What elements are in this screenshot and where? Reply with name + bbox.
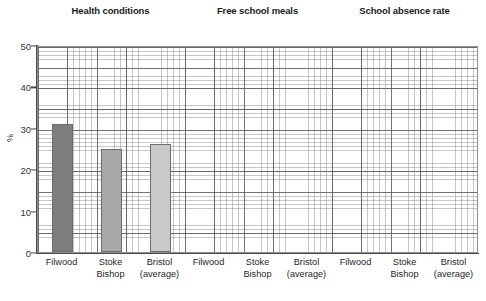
x-label-group-1: FilwoodStokeBishopBristol(average): [184, 256, 331, 298]
y-tick-mark-10: [31, 211, 36, 212]
plot-area: [37, 46, 478, 253]
group-header-school-absence-rate: School absence rate: [331, 4, 478, 40]
y-axis-tick-labels: 50 40 30 20 10 0: [0, 40, 31, 254]
bar-health-conditions-filwood: [52, 124, 73, 252]
y-tick-20: 20: [0, 165, 31, 176]
bar-chart: Health conditions Free school meals Scho…: [0, 0, 486, 301]
y-tick-mark-0: [31, 252, 36, 253]
x-axis-labels: FilwoodStokeBishopBristol(average)Filwoo…: [37, 256, 478, 298]
x-axis-label-filwood: Filwood: [193, 256, 225, 268]
group-header-free-school-meals: Free school meals: [184, 4, 331, 40]
x-axis-label-stoke-bishop: StokeBishop: [96, 256, 124, 280]
x-axis-label-stoke-bishop: StokeBishop: [390, 256, 418, 280]
y-tick-30: 30: [0, 123, 31, 134]
y-tick-mark-50: [31, 45, 36, 46]
y-tick-mark-20: [31, 170, 36, 171]
y-tick-mark-40: [31, 87, 36, 88]
y-tick-40: 40: [0, 82, 31, 93]
x-axis-label-filwood: Filwood: [340, 256, 372, 268]
x-axis-label-bristol-average: Bristol(average): [140, 256, 179, 280]
x-axis-label-bristol-average: Bristol(average): [287, 256, 326, 280]
x-axis-label-stoke-bishop: StokeBishop: [243, 256, 271, 280]
group-header-health-conditions: Health conditions: [37, 4, 184, 40]
group-headers: Health conditions Free school meals Scho…: [37, 4, 478, 40]
x-axis-label-filwood: Filwood: [46, 256, 78, 268]
x-label-group-2: FilwoodStokeBishopBristol(average): [331, 256, 478, 298]
y-tick-10: 10: [0, 206, 31, 217]
x-label-group-0: FilwoodStokeBishopBristol(average): [37, 256, 184, 298]
y-tick-50: 50: [0, 41, 31, 52]
y-tick-mark-30: [31, 128, 36, 129]
bar-health-conditions-stoke-bishop: [101, 149, 122, 253]
bar-health-conditions-bristol-average-: [150, 144, 171, 252]
x-axis-label-bristol-average: Bristol(average): [434, 256, 473, 280]
y-tick-0: 0: [0, 248, 31, 259]
